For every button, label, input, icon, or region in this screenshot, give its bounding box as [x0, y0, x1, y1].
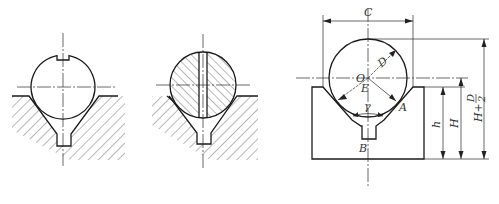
- label-C: C: [364, 6, 373, 19]
- svg-text:H+: H+: [472, 103, 485, 123]
- label-H: H: [448, 118, 461, 129]
- view-1-notched-ball-in-groove: [12, 33, 125, 166]
- technical-drawing: C O D E γ A B h H H+ D 2: [0, 0, 499, 204]
- label-H-plus-D-over-2: H+ D 2: [465, 94, 487, 123]
- label-gamma: γ: [364, 100, 371, 113]
- label-A: A: [398, 101, 407, 114]
- label-D: D: [374, 54, 390, 70]
- label-B: B: [358, 142, 367, 155]
- view-3-v-block-dimensioned: C O D E γ A B h H H+ D 2: [296, 6, 489, 188]
- label-h: h: [430, 121, 443, 128]
- view-2-sectioned-ball-in-groove: [152, 34, 258, 168]
- svg-text:D: D: [465, 94, 476, 103]
- svg-text:2: 2: [476, 96, 487, 103]
- label-E: E: [360, 82, 369, 95]
